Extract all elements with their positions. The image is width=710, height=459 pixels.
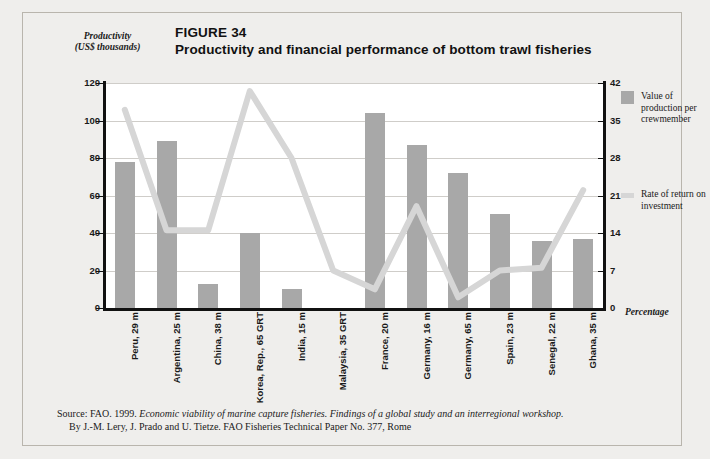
x-axis-label-china-38-m: China, 38 m — [212, 312, 223, 365]
y-axis-title: Productivity (US$ thousands) — [55, 31, 160, 53]
right-axis-tick-label: 14 — [610, 227, 640, 238]
x-axis-label-germany-16-m: Germany, 16 m — [421, 312, 432, 379]
right-axis-tick-mark — [598, 308, 606, 309]
right-axis-tick-label: 7 — [610, 265, 640, 276]
right-axis-tick-mark — [598, 121, 606, 122]
right-axis-tick-mark — [598, 271, 606, 272]
x-axis-label-ghana-35-m: Ghana, 35 m — [587, 312, 598, 369]
figure-number: FIGURE 34 — [175, 25, 247, 40]
left-axis-tick-mark — [96, 121, 104, 122]
legend-label-line: Rate of return on investment — [641, 189, 710, 212]
legend-item-value-of-production: Value of production per crewmember — [621, 91, 710, 126]
left-axis-tick-mark — [96, 271, 104, 272]
source-citation-italic: Economic viability of marine capture fis… — [139, 408, 563, 419]
left-axis-tick-mark — [96, 196, 104, 197]
right-axis-tick-mark — [598, 196, 606, 197]
source-note: Source: FAO. 1999. Economic viability of… — [57, 407, 661, 433]
legend-item-rate-of-return: Rate of return on investment — [621, 189, 710, 212]
bottom-axis-line — [103, 308, 606, 311]
x-axis-label-peru-29-m: Peru, 29 m — [129, 312, 140, 360]
source-prefix: Source: FAO. 1999. — [57, 408, 139, 419]
left-axis-tick-mark — [96, 83, 104, 84]
right-axis-tick-mark — [598, 233, 606, 234]
right-axis-title: Percentage — [625, 307, 669, 317]
x-axis-label-malaysia-35-grt: Malaysia, 35 GRT — [337, 312, 348, 390]
x-axis-label-france-20-m: France, 20 m — [379, 312, 390, 370]
figure-frame: Productivity (US$ thousands) FIGURE 34 P… — [22, 12, 682, 446]
source-line-2: By J.-M. Lery, J. Prado and U. Tietze. F… — [69, 420, 661, 433]
x-axis-label-korea-rep-65-grt: Korea, Rep., 65 GRT — [254, 312, 265, 403]
legend-label-bar: Value of production per crewmember — [641, 91, 710, 126]
left-axis-tick-mark — [96, 158, 104, 159]
figure-header: Productivity (US$ thousands) FIGURE 34 P… — [23, 13, 681, 73]
y-axis-title-line2: (US$ thousands) — [55, 42, 160, 53]
x-axis-label-argentina-25-m: Argentina, 25 m — [171, 312, 182, 383]
line-series — [104, 83, 604, 308]
x-axis-label-germany-65-m: Germany, 65 m — [462, 312, 473, 379]
right-axis-tick-mark — [598, 158, 606, 159]
chart-plot-wrapper: 020406080100120 071421283542 — [84, 83, 604, 308]
right-axis-tick-label: 28 — [610, 152, 640, 163]
x-axis-label-spain-23-m: Spain, 23 m — [504, 312, 515, 365]
line-path — [125, 91, 583, 297]
line-swatch-icon — [621, 193, 634, 198]
bar-swatch-icon — [621, 91, 634, 104]
source-line-1: Source: FAO. 1999. Economic viability of… — [57, 407, 661, 420]
left-axis-tick-mark — [96, 308, 104, 309]
left-axis-tick-mark — [96, 233, 104, 234]
x-axis-labels: Peru, 29 mArgentina, 25 mChina, 38 mKore… — [104, 312, 604, 420]
right-axis-tick-label: 42 — [610, 77, 640, 88]
figure-title: Productivity and financial performance o… — [175, 42, 592, 57]
x-axis-label-senegal-22-m: Senegal, 22 m — [546, 312, 557, 375]
x-axis-label-india-15-m: India, 15 m — [296, 312, 307, 361]
y-axis-title-line1: Productivity — [55, 31, 160, 42]
right-axis-tick-mark — [598, 83, 606, 84]
chart-plot-area — [104, 83, 604, 308]
